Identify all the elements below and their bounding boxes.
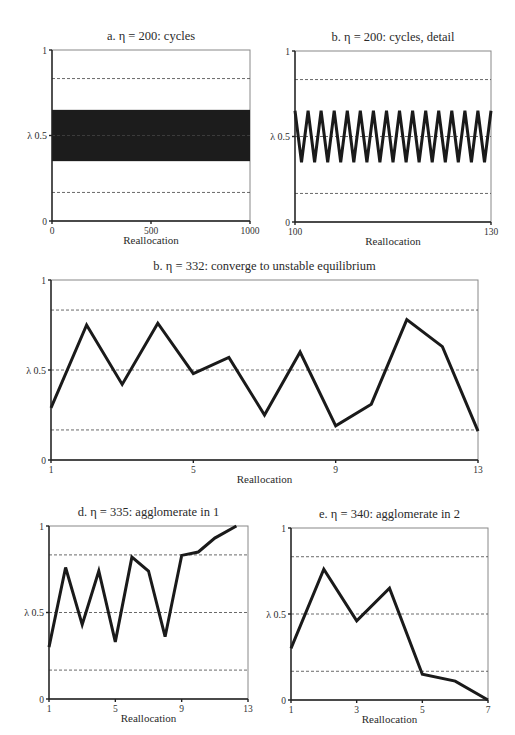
x-tick-label: 1 [49, 465, 54, 475]
y-axis-label: λ 0.5 [270, 131, 290, 142]
y-tick-label: 0 [281, 696, 286, 706]
x-tick-label: 3 [354, 705, 359, 715]
y-axis-label: λ 0.5 [266, 609, 286, 620]
chart-title: d. η = 335: agglomerate in 1 [78, 505, 220, 519]
y-tick-label: 0 [41, 456, 46, 466]
x-tick-label: 9 [333, 465, 338, 475]
x-tick-label: 1 [289, 705, 294, 715]
chart-panel-c: b. η = 332: converge to unstable equilib… [26, 259, 483, 485]
data-series-line [49, 526, 236, 647]
chart-panel-d: d. η = 335: agglomerate in 10λ 0.5115913… [24, 505, 253, 724]
chart-panel-e: e. η = 340: agglomerate in 20λ 0.511357R… [266, 507, 490, 725]
x-axis-label: Reallocation [237, 473, 293, 485]
x-tick-label: 1 [47, 704, 52, 714]
data-series-line [51, 320, 478, 432]
x-tick-label: 0 [50, 226, 55, 236]
x-tick-label: 13 [473, 465, 483, 475]
x-tick-label: 5 [191, 465, 196, 475]
y-tick-label: 1 [42, 46, 47, 56]
x-axis-label: Reallocation [123, 234, 179, 246]
figure: a. η = 200: cycles0λ 0.5105001000Realloc… [0, 0, 515, 735]
y-tick-label: 0 [39, 695, 44, 705]
y-tick-label: 1 [39, 522, 44, 532]
x-axis-label: Reallocation [365, 235, 421, 247]
chart-title: e. η = 340: agglomerate in 2 [319, 507, 460, 521]
x-tick-label: 5 [420, 705, 425, 715]
y-tick-label: 0 [285, 218, 290, 228]
x-tick-label: 13 [243, 704, 253, 714]
x-tick-label: 7 [486, 705, 491, 715]
x-tick-label: 130 [484, 227, 499, 237]
chart-panel-b: b. η = 200: cycles, detail0λ 0.51100130R… [270, 30, 498, 247]
y-tick-label: 1 [41, 276, 46, 286]
chart-panel-a: a. η = 200: cycles0λ 0.5105001000Realloc… [27, 29, 260, 246]
x-axis-label: Reallocation [121, 712, 177, 724]
x-axis-label: Reallocation [362, 713, 418, 725]
x-tick-label: 5 [113, 704, 118, 714]
y-tick-label: 1 [285, 47, 290, 57]
chart-title: b. η = 332: converge to unstable equilib… [153, 259, 376, 273]
y-tick-label: 0 [42, 217, 47, 227]
x-tick-label: 100 [288, 227, 303, 237]
chart-title: b. η = 200: cycles, detail [332, 30, 455, 44]
x-tick-label: 1000 [241, 226, 260, 236]
y-tick-label: 1 [281, 524, 286, 534]
y-axis-label: λ 0.5 [24, 607, 44, 618]
y-axis-label: λ 0.5 [27, 130, 47, 141]
chart-title: a. η = 200: cycles [107, 29, 195, 43]
y-axis-label: λ 0.5 [26, 365, 46, 376]
oscillation-band [52, 110, 250, 161]
x-tick-label: 9 [179, 704, 184, 714]
data-series-line [291, 569, 488, 700]
